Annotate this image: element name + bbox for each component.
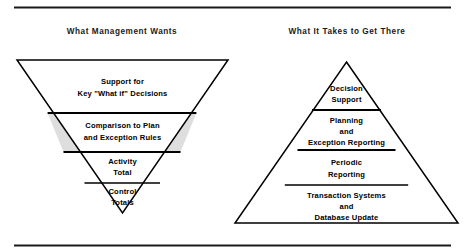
pyramid-band-2-line-3: Exception Reporting — [308, 138, 385, 147]
pyramid-band-4-line-3: Database Update — [315, 213, 379, 222]
pyramid-band-2-line-1: Planning — [330, 116, 363, 125]
pyramid-band-2-line-2: and — [340, 127, 354, 136]
inverted-band-1-line-2: Key "What if" Decisions — [78, 89, 168, 98]
pyramid-band-3-line-1: Periodic — [331, 158, 362, 167]
inverted-band-3-line-2: Total — [113, 168, 131, 177]
pyramid-band-1-line-2: Support — [331, 95, 361, 104]
inverted-band-2-line-1: Comparison to Plan — [85, 121, 160, 130]
right-panel-heading: What It Takes to Get There — [289, 27, 406, 36]
pyramid-band-4-line-2: and — [340, 202, 354, 211]
left-panel-heading: What Management Wants — [67, 27, 177, 36]
inverted-band-4-line-2: Totals — [111, 198, 134, 207]
inverted-band-1-line-1: Support for — [101, 77, 144, 86]
pyramid-band-4-line-1: Transaction Systems — [307, 191, 386, 200]
pyramid-band-1-line-1: Decision — [330, 84, 363, 93]
pyramid-band-3-line-2: Reporting — [328, 170, 365, 179]
figure-canvas: What Management Wants What It Takes to G… — [0, 0, 465, 252]
inverted-band-3-line-1: Activity — [108, 157, 137, 166]
inverted-pyramid-group: Support for Key "What if" Decisions Comp… — [17, 60, 228, 213]
inverted-band-2-line-2: and Exception Rules — [84, 133, 162, 142]
pyramid-group: Decision Support Planning and Exception … — [235, 62, 458, 223]
inverted-band-4-line-1: Control — [108, 187, 136, 196]
